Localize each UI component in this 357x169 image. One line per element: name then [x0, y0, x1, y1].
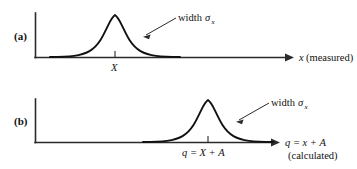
panel-b-axis-label-qualifier: (calculated) — [288, 150, 338, 162]
panel-a-annotation-leader — [146, 18, 176, 35]
panel-a-width-text: width — [178, 12, 203, 23]
panel-b-label: (b) — [14, 115, 28, 128]
panel-b-annotation-arrowhead — [236, 120, 244, 125]
panel-a-annotation-arrowhead — [143, 35, 151, 40]
panel-b-width-annotation: width σ x — [271, 97, 309, 111]
panel-a-sigma-symbol: σ — [205, 12, 211, 23]
panel-b-sigma-symbol: σ — [298, 97, 304, 108]
figure-canvas: (a) X width σ x x (m — [0, 0, 357, 169]
panel-a-axis-label-qualifier: (measured) — [306, 52, 354, 64]
figure-container: (a) X width σ x x (m — [0, 0, 357, 169]
panel-a-x-axis-arrowhead — [285, 54, 294, 62]
panel-b: (b) q = X + A width σ x — [14, 97, 338, 162]
panel-b-center-tick-label: q = X + A — [182, 147, 225, 158]
panel-b-gaussian-curve — [143, 100, 273, 142]
panel-a: (a) X width σ x x (m — [14, 12, 354, 73]
panel-a-axis-label: x (measured) — [298, 52, 354, 64]
panel-b-axis-label-equation: q = x + A — [285, 137, 326, 148]
panel-a-width-annotation: width σ x — [178, 12, 216, 26]
panel-a-label: (a) — [14, 30, 27, 43]
panel-a-sigma-subscript: x — [211, 18, 216, 26]
panel-b-annotation-leader — [239, 103, 269, 120]
panel-b-width-text: width — [271, 97, 296, 108]
panel-a-center-tick-label: X — [110, 62, 118, 73]
panel-a-gaussian-curve — [50, 15, 180, 57]
panel-b-axis-label: q = x + A (calculated) — [285, 137, 338, 162]
panel-a-axis-label-variable: x — [298, 52, 304, 63]
panel-b-sigma-subscript: x — [304, 103, 309, 111]
